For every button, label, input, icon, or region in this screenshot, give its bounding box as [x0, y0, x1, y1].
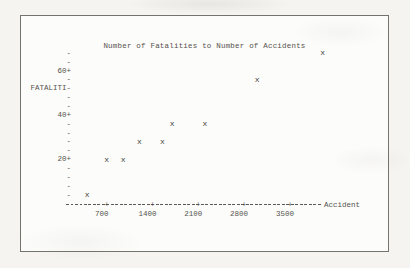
x-axis-tick-label: 1400	[130, 210, 166, 219]
x-axis-tick: +	[194, 201, 203, 210]
data-point-marker: x	[137, 138, 142, 146]
data-point-marker: x	[320, 49, 325, 57]
y-axis-tick-label: 40+	[24, 111, 71, 120]
data-point-marker: x	[104, 156, 109, 164]
data-point-marker: x	[170, 120, 175, 128]
y-axis-tick-label: 60+	[24, 67, 71, 76]
y-axis-dash: -	[24, 102, 71, 111]
y-axis-dash: -	[24, 182, 71, 191]
scatter-plot: Number of Fatalities to Number of Accide…	[0, 0, 410, 268]
y-axis-dash: -	[24, 164, 71, 173]
data-point-marker: x	[160, 138, 165, 146]
y-axis-dash: -	[24, 137, 71, 146]
y-axis-dash: -	[24, 173, 71, 182]
data-point-marker: x	[121, 156, 126, 164]
x-axis-tick: +	[240, 201, 249, 210]
scanned-page: Number of Fatalities to Number of Accide…	[0, 0, 410, 268]
x-axis-tick-label: 3500	[267, 210, 303, 219]
y-axis-dash: -	[24, 58, 71, 67]
y-axis-dash: -	[24, 120, 71, 129]
x-axis-tick: +	[285, 201, 294, 210]
y-axis-dash: -	[24, 75, 71, 84]
data-point-marker: x	[255, 76, 260, 84]
data-point-marker: x	[85, 191, 90, 199]
y-axis-dash: -	[24, 146, 71, 155]
y-axis-dash: -	[24, 129, 71, 138]
x-axis-tick-label: 2100	[175, 210, 211, 219]
y-axis-label: FATALITI-	[24, 84, 71, 93]
y-axis-dash: -	[24, 93, 71, 102]
y-axis-dash: -	[24, 49, 71, 58]
y-axis-dash: -	[24, 191, 71, 200]
x-axis-tick-label: 2800	[221, 210, 257, 219]
y-axis-tick-label: 20+	[24, 155, 71, 164]
x-axis-label: Accident	[324, 201, 360, 210]
chart-title: Number of Fatalities to Number of Accide…	[20, 42, 389, 50]
x-axis-tick: +	[102, 201, 111, 210]
x-axis-tick: +	[148, 201, 157, 210]
x-axis-tick-label: 700	[84, 210, 120, 219]
data-point-marker: x	[202, 120, 207, 128]
